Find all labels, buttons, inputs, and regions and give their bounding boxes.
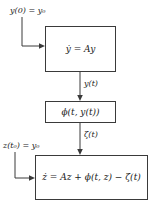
wire-zeta-output — [77, 123, 83, 155]
block-perturbed-system: ż = Az + ϕ(t, z) − ζ(t) — [35, 155, 148, 200]
input-label-initial-condition-z: z(t₀) = y₀ — [3, 142, 39, 150]
edge-label-state-output: y(t) — [84, 80, 98, 88]
block-diagram-canvas: ẏ = Ay ϕ(t, y(t)) ż = Az + ϕ(t, z) − ζ(t… — [0, 0, 156, 210]
block-nonlinearity: ϕ(t, y(t)) — [45, 101, 116, 123]
wire-initial-condition-z — [15, 152, 35, 181]
block-nonlinearity-label: ϕ(t, y(t)) — [61, 108, 99, 117]
wire-state-output — [77, 72, 83, 101]
input-label-initial-condition-y: y(0) = y₀ — [10, 7, 45, 15]
wire-initial-condition-y — [22, 17, 45, 49]
block-perturbed-system-label: ż = Az + ϕ(t, z) − ζ(t) — [42, 173, 141, 182]
edge-label-zeta-output: ζ(t) — [84, 131, 98, 139]
block-plant-label: ẏ = Ay — [66, 45, 96, 54]
block-plant: ẏ = Ay — [45, 26, 116, 72]
